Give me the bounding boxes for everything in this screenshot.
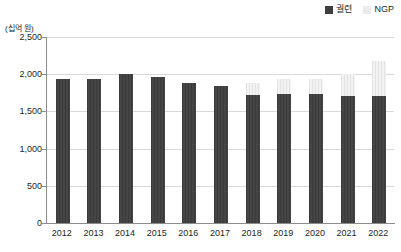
legend-item-cigarette: 궐련 bbox=[325, 5, 352, 14]
y-tick-label: 2,000 bbox=[0, 69, 42, 79]
bar-segment-cigarette[interactable] bbox=[341, 96, 355, 223]
x-tick-label: 2022 bbox=[368, 228, 388, 238]
bar-segment-ngp[interactable] bbox=[246, 83, 260, 95]
bar-group[interactable] bbox=[56, 79, 70, 223]
bar-series bbox=[47, 37, 394, 223]
stacked-bar-chart: 궐련 NGP (십억 원) 05001,0001,5002,0002,500 2… bbox=[0, 0, 401, 252]
bar-segment-cigarette[interactable] bbox=[151, 77, 165, 223]
x-tick-label: 2013 bbox=[83, 228, 103, 238]
x-tick-label: 2016 bbox=[178, 228, 198, 238]
legend-item-ngp: NGP bbox=[363, 5, 394, 14]
y-tick-label: 2,500 bbox=[0, 32, 42, 42]
bar-group[interactable] bbox=[151, 77, 165, 223]
x-tick-label: 2021 bbox=[337, 228, 357, 238]
bar-group[interactable] bbox=[309, 79, 323, 223]
bar-segment-cigarette[interactable] bbox=[372, 96, 386, 223]
light-square-icon bbox=[363, 6, 371, 14]
bar-group[interactable] bbox=[372, 61, 386, 223]
bar-group[interactable] bbox=[87, 79, 101, 223]
bar-segment-cigarette[interactable] bbox=[214, 86, 228, 223]
x-tick-label: 2017 bbox=[210, 228, 230, 238]
bar-segment-ngp[interactable] bbox=[277, 79, 291, 94]
y-axis-labels: 05001,0001,5002,0002,500 bbox=[0, 0, 42, 252]
bar-group[interactable] bbox=[214, 86, 228, 223]
x-tick-label: 2020 bbox=[305, 228, 325, 238]
bar-segment-cigarette[interactable] bbox=[182, 83, 196, 223]
x-axis-labels: 2012201320142015201620172018201920202021… bbox=[0, 228, 401, 248]
bar-segment-cigarette[interactable] bbox=[119, 74, 133, 223]
y-tick-label: 500 bbox=[0, 181, 42, 191]
bar-segment-cigarette[interactable] bbox=[87, 79, 101, 223]
x-tick-label: 2014 bbox=[115, 228, 135, 238]
bar-segment-cigarette[interactable] bbox=[277, 94, 291, 223]
y-tick-label: 1,500 bbox=[0, 106, 42, 116]
bar-group[interactable] bbox=[246, 83, 260, 223]
x-tick-label: 2012 bbox=[52, 228, 72, 238]
plot-area bbox=[46, 37, 394, 223]
y-tick-label: 1,000 bbox=[0, 144, 42, 154]
chart-legend: 궐련 NGP bbox=[325, 5, 394, 14]
bar-group[interactable] bbox=[182, 83, 196, 223]
x-axis-line bbox=[46, 223, 395, 224]
y-tick-label: 0 bbox=[0, 218, 42, 228]
x-tick-label: 2018 bbox=[242, 228, 262, 238]
x-tick-label: 2019 bbox=[273, 228, 293, 238]
x-tick-label: 2015 bbox=[147, 228, 167, 238]
bar-group[interactable] bbox=[277, 79, 291, 223]
bar-segment-cigarette[interactable] bbox=[309, 94, 323, 223]
legend-label-ngp: NGP bbox=[374, 5, 394, 14]
bar-segment-cigarette[interactable] bbox=[56, 79, 70, 223]
bar-segment-ngp[interactable] bbox=[309, 79, 323, 94]
legend-label-cigarette: 궐련 bbox=[336, 5, 352, 14]
dark-square-icon bbox=[325, 6, 333, 14]
bar-segment-ngp[interactable] bbox=[372, 61, 386, 96]
bar-group[interactable] bbox=[119, 74, 133, 223]
bar-group[interactable] bbox=[341, 74, 355, 223]
bar-segment-cigarette[interactable] bbox=[246, 95, 260, 223]
bar-segment-ngp[interactable] bbox=[341, 74, 355, 96]
